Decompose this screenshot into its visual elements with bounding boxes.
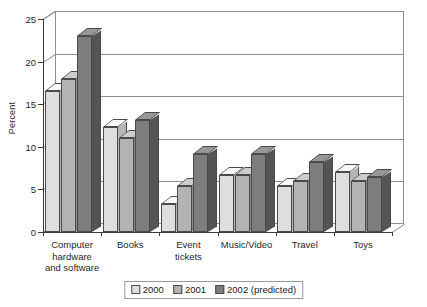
- y-tick-label: 25: [25, 14, 36, 25]
- x-category-label: Event tickets: [159, 239, 217, 262]
- x-tick-mark: [276, 232, 277, 236]
- bar-front-face: [45, 91, 60, 232]
- bar: [219, 175, 234, 232]
- y-tick-label: 15: [25, 99, 36, 110]
- bar-front-face: [367, 177, 382, 232]
- bar-front-face: [135, 120, 150, 232]
- depth-connector-bottom-right: [392, 224, 405, 233]
- x-category-label: Computer hardware and software: [43, 239, 101, 274]
- bar-front-face: [293, 181, 308, 232]
- legend-swatch: [173, 285, 182, 294]
- x-tick-mark: [101, 232, 102, 236]
- bar-front-face: [335, 172, 350, 232]
- x-category-label: Toys: [334, 239, 392, 251]
- y-tick-mark: [38, 232, 43, 233]
- bar-front-face: [251, 154, 266, 232]
- y-tick-label: 0: [31, 227, 36, 238]
- bar: [103, 127, 118, 232]
- x-category-label: Travel: [276, 239, 334, 251]
- bar: [45, 91, 60, 232]
- bar: [119, 138, 134, 232]
- x-tick-mark: [218, 232, 219, 236]
- bar-front-face: [351, 181, 366, 232]
- bar: [77, 36, 92, 232]
- x-tick-mark: [159, 232, 160, 236]
- legend-label: 2002 (predicted): [227, 284, 296, 295]
- x-tick-mark: [334, 232, 335, 236]
- x-tick-mark: [392, 232, 393, 236]
- bar: [351, 181, 366, 232]
- bar-side-face: [382, 177, 391, 232]
- bar-front-face: [119, 138, 134, 232]
- y-tick-mark: [38, 19, 43, 20]
- x-category-label: Books: [101, 239, 159, 251]
- bar: [367, 177, 382, 232]
- bar: [293, 181, 308, 232]
- y-tick-label: 20: [25, 56, 36, 67]
- bar: [135, 120, 150, 232]
- bar-front-face: [161, 204, 176, 232]
- bar-side-face: [150, 120, 159, 232]
- legend-swatch: [215, 285, 224, 294]
- bar-chart: Percent 0510152025 Computer hardware and…: [0, 0, 427, 307]
- legend-item: 2000: [131, 284, 164, 295]
- bar: [251, 154, 266, 232]
- legend-item: 2001: [173, 284, 206, 295]
- bar-front-face: [61, 79, 76, 232]
- bar-front-face: [235, 175, 250, 232]
- bar: [235, 175, 250, 232]
- bar: [309, 162, 324, 232]
- plot-area: [43, 19, 392, 232]
- x-category-label: Music/Video: [218, 239, 276, 251]
- bar-front-face: [219, 175, 234, 232]
- bar-front-face: [177, 186, 192, 232]
- y-tick-mark: [38, 147, 43, 148]
- y-tick-label: 5: [31, 184, 36, 195]
- x-tick-mark: [43, 232, 44, 236]
- bar-front-face: [103, 127, 118, 232]
- y-tick-mark: [38, 189, 43, 190]
- bar: [61, 79, 76, 232]
- y-tick-mark: [38, 62, 43, 63]
- bar: [335, 172, 350, 232]
- bar-front-face: [77, 36, 92, 232]
- y-tick-label: 10: [25, 141, 36, 152]
- y-tick-mark: [38, 104, 43, 105]
- bar-side-face: [324, 162, 333, 232]
- x-axis-category-labels: Computer hardware and softwareBooksEvent…: [43, 239, 392, 284]
- bar-side-face: [266, 154, 275, 232]
- chart-legend: 200020012002 (predicted): [124, 281, 303, 299]
- bar-series-container: [43, 19, 392, 232]
- legend-item: 2002 (predicted): [215, 284, 296, 295]
- bar: [177, 186, 192, 232]
- bar-front-face: [309, 162, 324, 232]
- y-axis-tick-labels: 0510152025: [0, 19, 36, 232]
- legend-label: 2000: [143, 284, 164, 295]
- bar: [277, 186, 292, 232]
- bar-side-face: [208, 154, 217, 232]
- gridline: [55, 11, 404, 12]
- bar-front-face: [277, 186, 292, 232]
- bar-side-face: [92, 36, 101, 232]
- legend-swatch: [131, 285, 140, 294]
- bar: [193, 154, 208, 232]
- bar: [161, 204, 176, 232]
- legend-label: 2001: [185, 284, 206, 295]
- bar-front-face: [193, 154, 208, 232]
